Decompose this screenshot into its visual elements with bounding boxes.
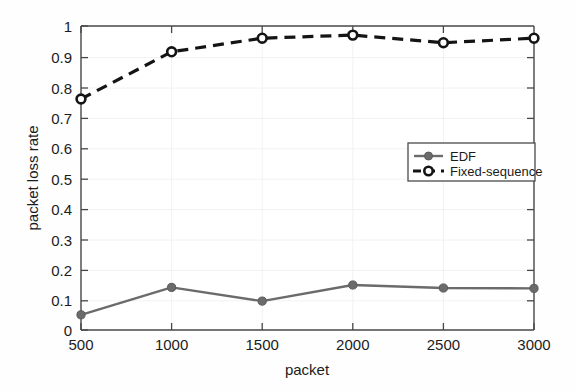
edf-marker xyxy=(530,284,538,292)
x-tick-label: 2000 xyxy=(336,336,369,353)
chart-figure: 1 0.9 0.8 0.7 0.6 0.5 0.4 0.3 0.2 0.1 0 … xyxy=(0,0,577,391)
edf-marker xyxy=(439,284,447,292)
fixed-sequence-marker xyxy=(167,47,176,56)
fixed-sequence-marker xyxy=(77,95,86,104)
y-tick-label: 1 xyxy=(64,18,72,35)
fixed-sequence-marker xyxy=(439,38,448,47)
y-tick-label: 0.8 xyxy=(51,80,72,97)
y-tick-label: 0.4 xyxy=(51,201,72,218)
legend-fixed-sequence-marker xyxy=(424,167,432,175)
x-axis-title: packet xyxy=(285,361,330,378)
fixed-sequence-marker xyxy=(258,34,267,43)
x-tick-label: 2500 xyxy=(427,336,460,353)
edf-marker xyxy=(349,281,357,289)
y-tick-label: 0.6 xyxy=(51,140,72,157)
legend-label-fixed-sequence: Fixed-sequence xyxy=(450,164,543,179)
legend-label-edf: EDF xyxy=(450,149,476,164)
x-axis-tick-labels: 500 1000 1500 2000 2500 3000 xyxy=(68,336,550,353)
y-tick-label: 0.1 xyxy=(51,292,72,309)
y-tick-label: 0.7 xyxy=(51,110,72,127)
edf-marker xyxy=(258,297,266,305)
edf-marker xyxy=(168,283,176,291)
y-axis-title: packet loss rate xyxy=(24,125,41,230)
y-axis-tick-labels: 1 0.9 0.8 0.7 0.6 0.5 0.4 0.3 0.2 0.1 0 xyxy=(51,18,72,339)
legend-edf-marker xyxy=(425,152,433,160)
y-tick-label: 0.9 xyxy=(51,49,72,66)
y-tick-label: 0.5 xyxy=(51,171,72,188)
x-tick-label: 3000 xyxy=(517,336,550,353)
y-tick-label: 0.3 xyxy=(51,232,72,249)
chart-legend[interactable]: EDF Fixed-sequence xyxy=(408,143,543,181)
fixed-sequence-marker xyxy=(348,31,357,40)
x-tick-label: 1000 xyxy=(155,336,188,353)
edf-marker xyxy=(77,311,85,319)
x-tick-label: 500 xyxy=(68,336,93,353)
line-chart: 1 0.9 0.8 0.7 0.6 0.5 0.4 0.3 0.2 0.1 0 … xyxy=(0,0,577,391)
x-tick-label: 1500 xyxy=(246,336,279,353)
fixed-sequence-marker xyxy=(530,34,539,43)
y-tick-label: 0.2 xyxy=(51,262,72,279)
